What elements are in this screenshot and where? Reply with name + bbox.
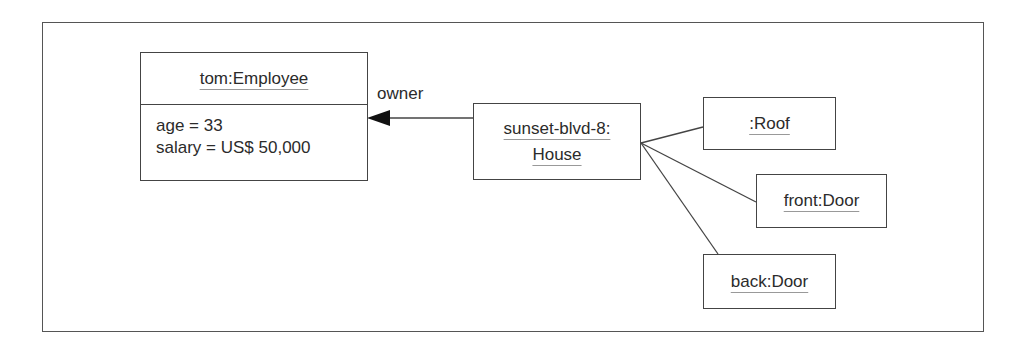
front-door-link xyxy=(641,143,756,202)
employee-name-compartment: tom:Employee xyxy=(141,53,367,105)
employee-object[interactable]: tom:Employee age = 33 salary = US$ 50,00… xyxy=(140,52,368,181)
front-door-name: front:Door xyxy=(784,191,860,211)
attribute-age: age = 33 xyxy=(156,115,367,137)
back-door-name: back:Door xyxy=(731,272,808,292)
employee-name: tom:Employee xyxy=(200,69,309,89)
house-name-line-2: House xyxy=(532,142,581,168)
roof-object[interactable]: :Roof xyxy=(703,97,836,150)
back-door-object[interactable]: back:Door xyxy=(703,254,836,309)
owner-arrowhead-icon xyxy=(367,110,390,126)
house-name-line-1: sunset-blvd-8: xyxy=(504,116,611,142)
roof-link xyxy=(641,127,703,143)
back-door-link xyxy=(641,143,718,254)
house-object[interactable]: sunset-blvd-8: House xyxy=(473,103,641,180)
owner-role-label: owner xyxy=(377,84,423,104)
roof-name: :Roof xyxy=(749,114,790,134)
front-door-object[interactable]: front:Door xyxy=(756,174,887,228)
employee-attributes: age = 33 salary = US$ 50,000 xyxy=(141,105,367,159)
attribute-salary: salary = US$ 50,000 xyxy=(156,137,367,159)
